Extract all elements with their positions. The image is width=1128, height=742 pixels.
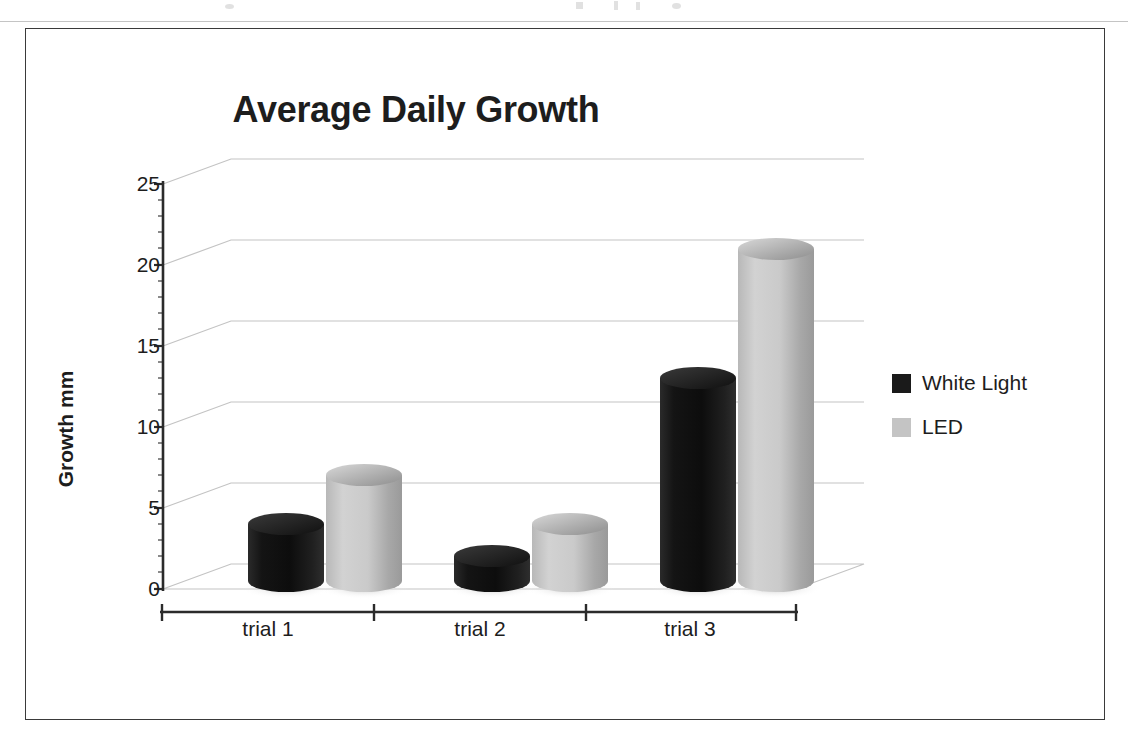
bar-trial-3-white-light [652, 367, 744, 599]
bar-trial-2-white-light [446, 545, 538, 599]
bar-trial-1-led [318, 464, 410, 599]
bar-trial-2-led [524, 513, 616, 599]
legend-label: White Light [922, 371, 1027, 395]
x-tick-label: trial 1 [178, 617, 358, 641]
legend-item-led: LED [892, 405, 1092, 449]
y-axis-title: Growth mm [54, 349, 78, 509]
x-tick-label: trial 3 [600, 617, 780, 641]
x-tick-label: trial 2 [390, 617, 570, 641]
y-tick-label: 10 [114, 415, 160, 439]
legend-item-white-light: White Light [892, 361, 1092, 405]
chart-frame: Average Daily Growth [25, 28, 1105, 720]
chart-legend: White Light LED [892, 361, 1092, 449]
legend-swatch-icon [892, 374, 911, 393]
scan-artifact-strip [0, 0, 1128, 26]
bar-trial-1-white-light [240, 513, 332, 599]
legend-swatch-icon [892, 418, 911, 437]
y-tick-label: 15 [114, 334, 160, 358]
y-tick-label: 20 [114, 253, 160, 277]
y-tick-label: 25 [114, 172, 160, 196]
legend-label: LED [922, 415, 963, 439]
y-tick-label: 0 [114, 577, 160, 601]
x-axis-tick-labels: trial 1 trial 2 trial 3 [26, 617, 1106, 657]
y-tick-label: 5 [114, 496, 160, 520]
bar-trial-3-led [730, 238, 822, 599]
